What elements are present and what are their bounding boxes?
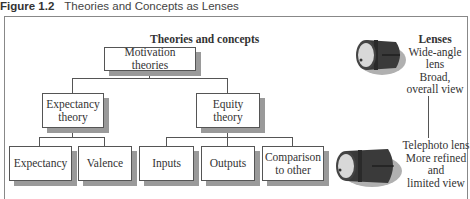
node-label: Expectancy xyxy=(46,98,100,111)
telephoto-lens-label: Telephoto lens More refined and limited … xyxy=(402,139,470,189)
lens-connector xyxy=(428,96,429,138)
lens-text: Wide-angle xyxy=(402,46,468,59)
lens-text: More refined xyxy=(402,152,470,165)
node-label: Outputs xyxy=(210,157,246,170)
node-label: Equity xyxy=(213,98,244,111)
connector xyxy=(72,78,228,79)
lens-text: Telephoto lens xyxy=(402,139,470,152)
connector xyxy=(72,127,73,137)
node-label: theory xyxy=(213,111,242,124)
node-label: Inputs xyxy=(152,157,181,170)
lens-text: Broad, xyxy=(402,71,468,84)
connector xyxy=(39,137,40,146)
figure-title: Theories and Concepts as Lenses xyxy=(64,0,239,12)
figure-caption: Figure 1.2Theories and Concepts as Lense… xyxy=(0,0,239,12)
node-inputs: Inputs xyxy=(139,146,194,181)
connector xyxy=(166,137,167,146)
node-label: theory xyxy=(58,111,87,124)
node-expectancy-theory: Expectancytheory xyxy=(42,93,104,128)
node-label: to other xyxy=(275,164,310,177)
node-label: Expectancy xyxy=(14,157,68,170)
lenses-heading: Lenses xyxy=(402,33,468,46)
lens-text: overall view xyxy=(402,83,468,96)
connector xyxy=(292,137,293,146)
connector xyxy=(227,137,228,146)
wide-angle-lens-label: Lenses Wide-angle lens Broad, overall vi… xyxy=(402,33,468,96)
connector xyxy=(39,137,105,138)
lens-text: limited view xyxy=(402,177,470,190)
node-label: Comparison xyxy=(265,151,321,164)
node-valence: Valence xyxy=(78,146,132,181)
figure-label: Figure 1.2 xyxy=(0,0,54,12)
connector xyxy=(166,137,292,138)
diagram-heading: Theories and concepts xyxy=(150,33,259,45)
node-expectancy: Expectancy xyxy=(9,146,72,181)
node-label: Valence xyxy=(87,157,123,170)
node-motivation-theories: Motivation theories xyxy=(104,47,196,71)
node-comparison-to-other: Comparisonto other xyxy=(262,146,324,181)
lens-text: lens xyxy=(402,58,468,71)
telephoto-lens-icon xyxy=(332,145,404,189)
node-equity-theory: Equitytheory xyxy=(196,93,260,128)
connector xyxy=(72,78,73,93)
connector xyxy=(104,137,105,146)
connector xyxy=(227,78,228,93)
lens-text: and xyxy=(402,164,470,177)
connector xyxy=(227,127,228,137)
node-outputs: Outputs xyxy=(201,146,255,181)
node-label: Motivation theories xyxy=(105,46,195,72)
